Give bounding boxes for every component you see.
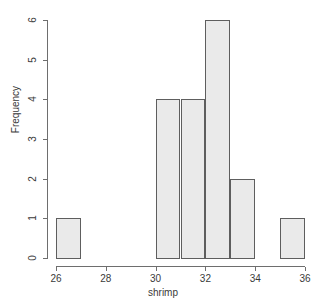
x-axis-tick-label: 36 (294, 273, 316, 284)
y-axis-tick-label: 3 (28, 132, 38, 146)
y-axis-title: Frequency (10, 70, 21, 150)
x-axis-title: shrimp (0, 287, 326, 298)
x-axis-tick-label: 30 (145, 273, 167, 284)
histogram-bar (181, 99, 206, 259)
x-axis-tick (106, 267, 107, 271)
histogram-bar (156, 99, 181, 259)
y-axis-tick-label: 4 (28, 92, 38, 106)
y-axis-tick (43, 139, 47, 140)
plot-area (0, 0, 326, 306)
x-axis-tick (305, 267, 306, 271)
y-axis-tick (43, 218, 47, 219)
y-axis-tick (43, 179, 47, 180)
y-axis-tick-label: 0 (28, 251, 38, 265)
x-axis-tick-label: 28 (95, 273, 117, 284)
x-axis-tick (156, 267, 157, 271)
y-axis-tick (43, 20, 47, 21)
histogram-bar (230, 179, 255, 259)
histogram-bar (280, 218, 305, 259)
histogram-chart: Frequency shrimp 0123456262830323436 (0, 0, 326, 306)
y-axis-line (47, 20, 48, 259)
y-axis-tick-label: 6 (28, 13, 38, 27)
x-axis-tick (205, 267, 206, 271)
y-axis-tick (43, 99, 47, 100)
y-axis-tick-label: 2 (28, 172, 38, 186)
histogram-bar (205, 20, 230, 259)
y-axis-tick (43, 60, 47, 61)
x-axis-line (56, 266, 305, 267)
x-axis-tick-label: 32 (194, 273, 216, 284)
x-axis-tick-label: 34 (244, 273, 266, 284)
y-axis-tick (43, 258, 47, 259)
x-axis-tick (56, 267, 57, 271)
histogram-bar (56, 218, 81, 259)
x-axis-tick (255, 267, 256, 271)
y-axis-tick-label: 1 (28, 211, 38, 225)
y-axis-tick-label: 5 (28, 53, 38, 67)
x-axis-tick-label: 26 (45, 273, 67, 284)
